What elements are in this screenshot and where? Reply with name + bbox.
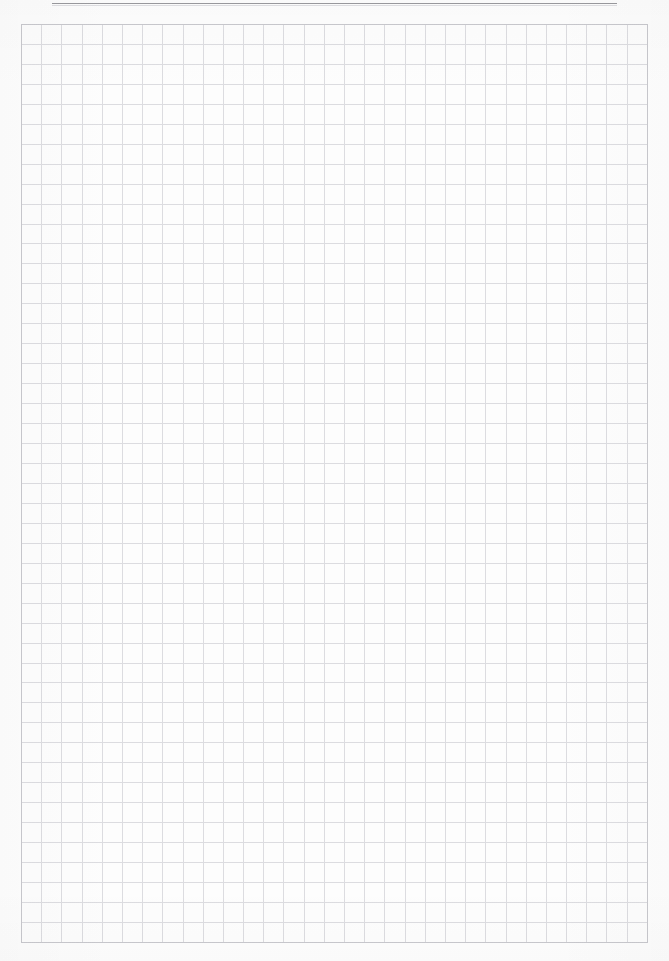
grid-cell xyxy=(526,44,546,64)
grid-cell xyxy=(42,104,62,124)
grid-cell xyxy=(183,783,203,803)
grid-cell xyxy=(102,463,122,483)
grid-row xyxy=(22,404,648,424)
grid-cell xyxy=(506,823,526,843)
grid-cell xyxy=(587,204,607,224)
grid-cell xyxy=(203,603,223,623)
grid-cell xyxy=(264,563,284,583)
grid-cell xyxy=(365,384,385,404)
grid-cell xyxy=(203,344,223,364)
grid-cell xyxy=(244,922,264,942)
grid-cell xyxy=(62,104,82,124)
grid-cell xyxy=(587,404,607,424)
grid-cell xyxy=(365,763,385,783)
grid-cell xyxy=(506,204,526,224)
grid-cell xyxy=(284,144,304,164)
grid-cell xyxy=(143,922,163,942)
grid-cell xyxy=(143,344,163,364)
grid-cell xyxy=(42,444,62,464)
grid-cell xyxy=(445,264,465,284)
grid-cell xyxy=(143,324,163,344)
grid-cell xyxy=(223,922,243,942)
grid-cell xyxy=(486,483,506,503)
grid-cell xyxy=(183,543,203,563)
grid-cell xyxy=(486,863,506,883)
grid-cell xyxy=(163,84,183,104)
grid-cell xyxy=(244,543,264,563)
grid-cell xyxy=(122,902,142,922)
grid-cell xyxy=(183,204,203,224)
grid-cell xyxy=(627,184,647,204)
grid-row xyxy=(22,44,648,64)
grid-cell xyxy=(526,902,546,922)
grid-cell xyxy=(284,424,304,444)
grid-cell xyxy=(506,384,526,404)
grid-cell xyxy=(62,902,82,922)
grid-cell xyxy=(62,204,82,224)
grid-cell xyxy=(365,164,385,184)
grid-cell xyxy=(365,44,385,64)
grid-cell xyxy=(345,863,365,883)
grid-cell xyxy=(385,84,405,104)
grid-cell xyxy=(385,643,405,663)
grid-cell xyxy=(405,44,425,64)
grid-row xyxy=(22,463,648,483)
grid-cell xyxy=(42,44,62,64)
grid-cell xyxy=(486,104,506,124)
grid-cell xyxy=(385,783,405,803)
grid-cell xyxy=(607,124,627,144)
grid-cell xyxy=(163,643,183,663)
grid-cell xyxy=(22,164,42,184)
grid-cell xyxy=(607,922,627,942)
grid-cell xyxy=(284,25,304,45)
grid-cell xyxy=(264,344,284,364)
grid-cell xyxy=(607,44,627,64)
grid-cell xyxy=(143,583,163,603)
grid-cell xyxy=(345,583,365,603)
grid-cell xyxy=(244,25,264,45)
grid-cell xyxy=(425,364,445,384)
grid-cell xyxy=(223,902,243,922)
grid-cell xyxy=(324,44,344,64)
grid-cell xyxy=(122,44,142,64)
grid-cell xyxy=(122,144,142,164)
grid-cell xyxy=(42,124,62,144)
grid-cell xyxy=(607,902,627,922)
grid-cell xyxy=(122,823,142,843)
grid-cell xyxy=(62,723,82,743)
grid-cell xyxy=(526,863,546,883)
grid-cell xyxy=(22,264,42,284)
grid-cell xyxy=(22,483,42,503)
grid-cell xyxy=(183,284,203,304)
grid-cell xyxy=(526,922,546,942)
grid-cell xyxy=(627,344,647,364)
grid-cell xyxy=(526,284,546,304)
grid-cell xyxy=(244,184,264,204)
grid-cell xyxy=(607,144,627,164)
grid-cell xyxy=(223,863,243,883)
grid-cell xyxy=(506,483,526,503)
grid-cell xyxy=(122,863,142,883)
grid-cell xyxy=(264,763,284,783)
grid-cell xyxy=(304,703,324,723)
grid-cell xyxy=(627,244,647,264)
grid-cell xyxy=(264,404,284,424)
grid-cell xyxy=(365,603,385,623)
grid-cell xyxy=(304,783,324,803)
grid-cell xyxy=(284,863,304,883)
grid-cell xyxy=(385,663,405,683)
grid-cell xyxy=(304,144,324,164)
grid-cell xyxy=(122,643,142,663)
grid-cell xyxy=(567,803,587,823)
grid-cell xyxy=(365,663,385,683)
grid-cell xyxy=(526,563,546,583)
grid-cell xyxy=(82,683,102,703)
grid-row xyxy=(22,843,648,863)
grid-cell xyxy=(627,424,647,444)
grid-cell xyxy=(42,863,62,883)
grid-cell xyxy=(203,703,223,723)
grid-cell xyxy=(143,503,163,523)
grid-cell xyxy=(22,763,42,783)
grid-cell xyxy=(264,204,284,224)
grid-cell xyxy=(203,84,223,104)
